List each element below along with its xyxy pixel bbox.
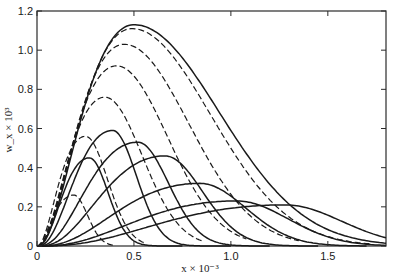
series-curve-6 [37, 201, 386, 246]
x-tick-label: 0.5 [126, 250, 141, 262]
y-axis-ticks: 00.20.40.60.81.01.2 [18, 5, 386, 252]
x-tick-label: 0 [34, 250, 40, 262]
x-axis-ticks: 00.51.01.5 [34, 11, 336, 262]
x-tick-label: 1.0 [223, 250, 238, 262]
series-envelope-solid- [37, 25, 386, 246]
y-axis-label: w_x × 10³ [2, 107, 14, 153]
series-curve-5 [37, 183, 367, 246]
y-tick-label: 0.6 [18, 123, 33, 135]
x-axis-label: x × 10⁻³ [181, 262, 219, 274]
series-dashed-envelope-4 [37, 97, 202, 246]
x-tick-label: 1.5 [320, 250, 335, 262]
y-tick-label: 0.2 [18, 201, 33, 213]
y-tick-label: 0.4 [18, 162, 33, 174]
series-dashed-envelope-2 [37, 44, 299, 246]
y-tick-label: 1.2 [18, 5, 33, 17]
curves [37, 25, 386, 246]
chart: 00.51.01.5 00.20.40.60.81.01.2 x × 10⁻³ … [0, 0, 393, 279]
y-tick-label: 0.8 [18, 83, 33, 95]
y-tick-label: 0 [27, 240, 33, 252]
y-tick-label: 1.0 [18, 44, 33, 56]
